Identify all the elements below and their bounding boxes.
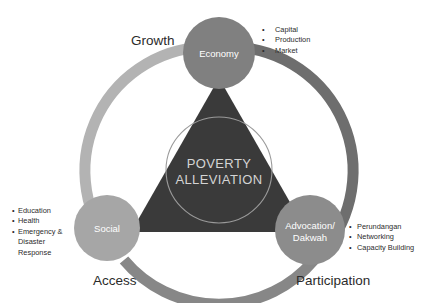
node-social[interactable]: Social [74, 195, 140, 261]
bullet-text: Networking [357, 232, 435, 242]
poverty-alleviation-triangle [131, 78, 307, 232]
outer-label-access: Access [93, 273, 137, 288]
node-social-label: Social [94, 223, 120, 234]
bullet-marker-icon: • [349, 222, 357, 232]
bullet-text: Capacity Building [357, 243, 435, 253]
center-text-line2: ALLEVIATION [175, 172, 262, 187]
list-item: • Production [262, 35, 342, 45]
list-item: • Networking [349, 232, 435, 242]
bullet-text: Production [275, 35, 342, 45]
arc-bottom [124, 260, 314, 303]
bullet-marker-icon: • [262, 25, 275, 35]
bullet-marker-icon: • [349, 243, 357, 253]
list-item: • Health [12, 216, 78, 226]
bullet-marker-icon: • [349, 232, 357, 242]
bullet-text: Education [18, 206, 78, 216]
list-item: • Capacity Building [349, 243, 435, 253]
list-item: • Education [12, 206, 78, 216]
list-item: • Emergency & Disaster Response [12, 227, 78, 258]
bullet-list-economy: • Capital • Production • Market [262, 25, 342, 56]
bullet-text: Health [18, 216, 78, 226]
outer-label-growth: Growth [131, 33, 175, 48]
list-item: • Perundangan [349, 222, 435, 232]
list-item: • Capital [262, 25, 342, 35]
bullet-text: Capital [275, 25, 342, 35]
outer-label-participation: Participation [296, 273, 370, 288]
poverty-alleviation-diagram: POVERTY ALLEVIATION Economy Social Advoc… [0, 0, 436, 303]
list-item: • Market [262, 46, 342, 56]
bullet-text: Emergency & Disaster Response [18, 227, 78, 258]
bullet-list-social: • Education • Health • Emergency & Disas… [12, 206, 78, 258]
bullet-list-advocation: • Perundangan • Networking • Capacity Bu… [349, 222, 435, 253]
node-economy[interactable]: Economy [183, 17, 255, 89]
bullet-marker-icon: • [262, 46, 275, 56]
node-advocation-label-line2: Dakwah [293, 232, 327, 243]
center-text-line1: POVERTY [187, 156, 252, 171]
node-advocation-label-line1: Advocation/ [285, 220, 335, 231]
bullet-marker-icon: • [262, 35, 275, 45]
bullet-text: Market [275, 46, 342, 56]
node-economy-label: Economy [199, 48, 239, 59]
node-advocation[interactable]: Advocation/ Dakwah [275, 195, 345, 265]
bullet-text: Perundangan [357, 222, 435, 232]
